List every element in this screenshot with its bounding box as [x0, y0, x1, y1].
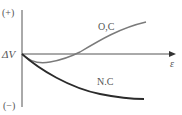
x-axis-arrow-icon	[169, 51, 176, 57]
curve-oc-label: O,C	[98, 21, 115, 32]
y-axis-label: ΔV	[1, 48, 16, 60]
curve-nc	[22, 54, 144, 99]
y-negative-label: (−)	[3, 100, 15, 112]
diagram-canvas: (+) (−) ΔV ε O,C N.C	[0, 0, 182, 115]
curve-nc-label: N.C	[97, 76, 114, 87]
curve-oc	[22, 22, 146, 63]
y-positive-label: (+)	[2, 7, 14, 19]
x-axis-label: ε	[170, 58, 174, 69]
